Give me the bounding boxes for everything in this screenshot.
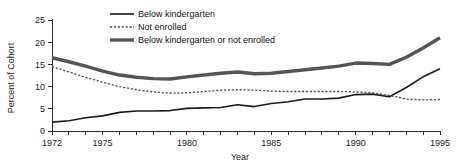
x-tick-label: 1972 xyxy=(42,138,62,148)
x-tick-label: 1980 xyxy=(177,138,197,148)
legend-label-0: Below kindergarten xyxy=(138,9,215,19)
x-axis: 197219751980198519901995 xyxy=(42,131,450,148)
x-tick-label: 1990 xyxy=(346,138,366,148)
y-tick-label: 10 xyxy=(35,82,45,92)
x-tick-label: 1995 xyxy=(430,138,450,148)
series-line-0 xyxy=(52,69,440,122)
y-tick-label: 15 xyxy=(35,60,45,70)
y-tick-label: 20 xyxy=(35,38,45,48)
legend-label-1: Not enrolled xyxy=(138,22,187,32)
y-axis-title: Percent of Cohort xyxy=(6,42,16,113)
y-tick-label: 5 xyxy=(40,104,45,114)
x-tick-label: 1975 xyxy=(93,138,113,148)
y-tick-label: 25 xyxy=(35,15,45,25)
series-layer xyxy=(52,38,440,122)
x-axis-title: Year xyxy=(231,152,249,162)
x-tick-label: 1985 xyxy=(261,138,281,148)
chart-figure: 0510152025 197219751980198519901995 Belo… xyxy=(0,0,468,168)
y-tick-label: 0 xyxy=(40,126,45,136)
line-chart: 0510152025 197219751980198519901995 Belo… xyxy=(0,0,468,168)
y-axis: 0510152025 xyxy=(35,15,52,136)
legend-label-2: Below kindergarten or not enrolled xyxy=(138,35,275,45)
chart-legend: Below kindergartenNot enrolledBelow kind… xyxy=(110,9,275,45)
